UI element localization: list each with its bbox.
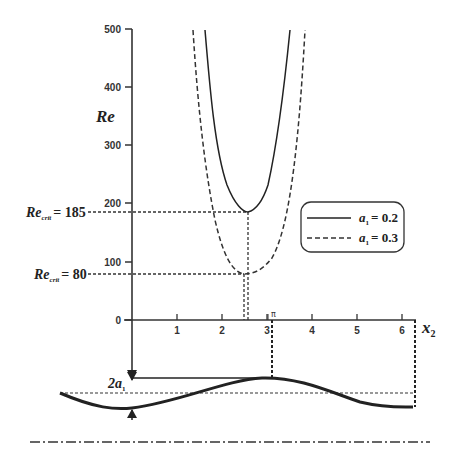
figure: 500 400 300 200 100 0 Re 1 2 3 4 5 6 π x… bbox=[0, 0, 460, 449]
x-tick-4: 4 bbox=[309, 325, 315, 336]
arrow-up-icon bbox=[127, 409, 137, 418]
x-axis-label: x2 bbox=[421, 318, 436, 339]
y-tick-0: 0 bbox=[115, 315, 121, 326]
x-tick-5: 5 bbox=[354, 325, 360, 336]
x-axis: 1 2 3 4 5 6 π x2 bbox=[124, 310, 436, 339]
y-axis-label: Re bbox=[95, 107, 115, 126]
x-tick-6: 6 bbox=[399, 325, 405, 336]
curve-a1-0.2 bbox=[205, 30, 290, 212]
amplitude-label: 2a1 bbox=[107, 376, 126, 393]
legend: a1= 0.2 a1= 0.3 bbox=[301, 202, 404, 252]
y-tick-500: 500 bbox=[104, 24, 121, 35]
x-tick-1: 1 bbox=[174, 325, 180, 336]
recrit-annotations: Recrit= 185 Recrit= 80 bbox=[25, 205, 248, 320]
pi-tick-label: π bbox=[271, 310, 276, 319]
wall-profile: 2a1 bbox=[60, 320, 415, 420]
y-axis: 500 400 300 200 100 0 Re bbox=[95, 24, 137, 381]
x-tick-2: 2 bbox=[219, 325, 225, 336]
curve-a1-0.3 bbox=[193, 30, 305, 274]
recrit-80-label: Recrit= 80 bbox=[33, 267, 87, 284]
y-tick-200: 200 bbox=[104, 198, 121, 209]
y-tick-400: 400 bbox=[104, 82, 121, 93]
y-tick-100: 100 bbox=[104, 257, 121, 268]
chart-canvas: 500 400 300 200 100 0 Re 1 2 3 4 5 6 π x… bbox=[0, 0, 460, 449]
recrit-185-label: Recrit= 185 bbox=[25, 205, 86, 222]
legend-item-0.3: a1= 0.3 bbox=[359, 230, 398, 247]
x-tick-3: 3 bbox=[264, 325, 270, 336]
y-tick-300: 300 bbox=[104, 140, 121, 151]
legend-item-0.2: a1= 0.2 bbox=[359, 210, 398, 227]
